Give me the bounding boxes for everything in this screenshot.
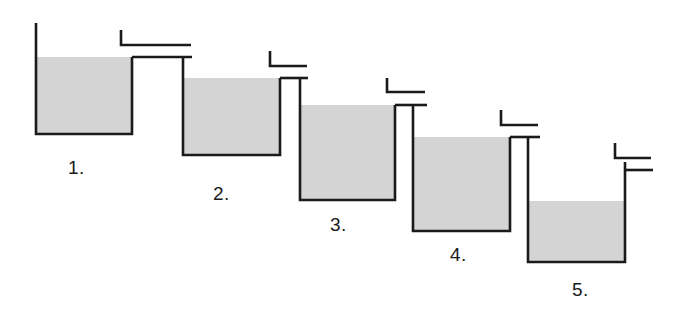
tank-label-4: 4.	[450, 244, 467, 265]
tank-label-2: 2.	[213, 183, 230, 204]
tank-label-5: 5.	[572, 279, 589, 300]
tank-fill-5	[529, 201, 624, 261]
cascade-svg: 1. 2. 3. 4.	[0, 0, 684, 314]
tank-fill-4	[414, 137, 509, 230]
tank-fill-1	[37, 57, 131, 133]
tank-label-1: 1.	[68, 157, 85, 178]
tank-fill-2	[184, 78, 279, 154]
tank-fill-3	[301, 105, 394, 199]
tank-label-3: 3.	[330, 214, 347, 235]
cascade-diagram: 1. 2. 3. 4.	[0, 0, 684, 314]
